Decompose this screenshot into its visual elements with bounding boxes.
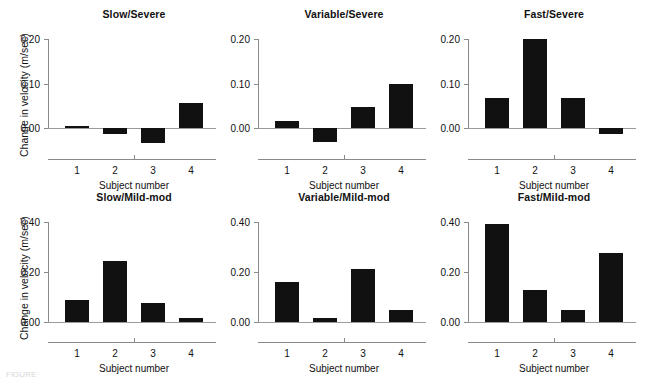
- figure-caption-fragment: FIGURE: [6, 370, 646, 379]
- panel-title: Fast/Mild-mod: [478, 191, 630, 203]
- zero-baseline: [468, 322, 636, 323]
- figure-panel-grid: Slow/Severe0.000.100.201234Subject numbe…: [0, 0, 650, 379]
- x-axis-tick-label: 4: [608, 348, 614, 359]
- y-axis-tick: [464, 272, 468, 273]
- x-axis-tick: [554, 338, 555, 342]
- y-axis-tick-label: 0.00: [426, 317, 460, 328]
- bar-subject-2: [523, 290, 547, 322]
- x-axis-tick-label: 2: [532, 348, 538, 359]
- x-axis-line: [468, 342, 636, 343]
- y-axis-line: [468, 222, 469, 322]
- y-axis-tick: [464, 222, 468, 223]
- bar-subject-1: [485, 224, 509, 322]
- chart-panel-6: Fast/Mild-mod0.000.200.401234Subject num…: [0, 0, 650, 379]
- bar-subject-4: [599, 253, 623, 323]
- y-axis-tick-label: 0.20: [426, 267, 460, 278]
- y-axis-tick-label: 0.40: [426, 217, 460, 228]
- x-axis-tick-label: 1: [494, 348, 500, 359]
- bar-subject-3: [561, 310, 585, 322]
- x-axis-tick-label: 3: [570, 348, 576, 359]
